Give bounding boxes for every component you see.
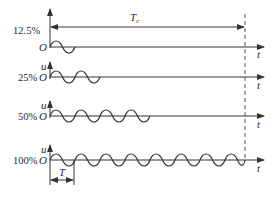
percent-label: 25%: [18, 72, 38, 83]
row-50-percent: u 50% O t: [18, 99, 264, 130]
t-label: t: [257, 162, 261, 174]
t-label: t: [257, 79, 261, 91]
origin-label: O: [39, 41, 47, 53]
t-label: t: [257, 118, 261, 130]
row-100-percent: u 100% O t T: [13, 143, 264, 185]
percent-label: 50%: [18, 111, 38, 122]
percent-label: 12.5%: [13, 25, 40, 36]
origin-label: O: [39, 110, 47, 122]
row-25-percent: u 25% O t: [18, 60, 264, 91]
control-period-dimension: Tc: [51, 11, 244, 27]
origin-label: O: [39, 154, 47, 166]
percent-label: 100%: [13, 155, 38, 166]
origin-label: O: [39, 71, 47, 83]
period-label: T: [59, 166, 66, 178]
t-label: t: [257, 48, 261, 60]
tc-label: Tc: [130, 11, 140, 25]
duty-cycle-diagram: Tc 12.5% O t u 25% O t u 50% O t u 100% …: [0, 0, 276, 201]
